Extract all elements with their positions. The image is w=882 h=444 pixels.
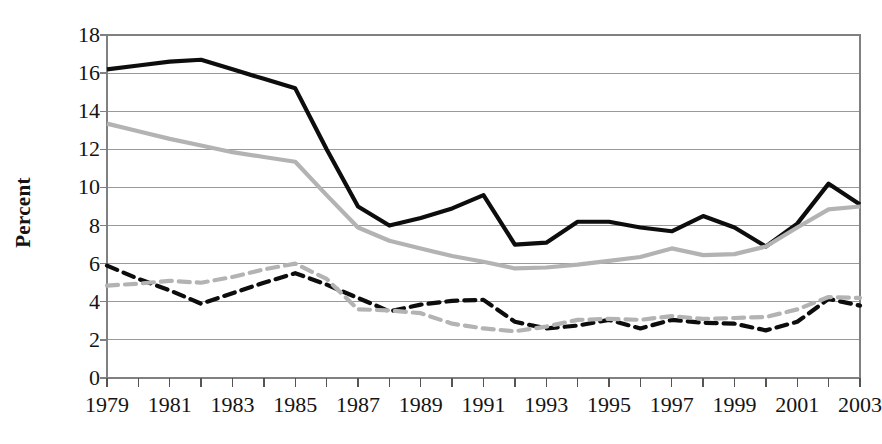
- plot-area: [0, 0, 882, 444]
- series-solid-black: [107, 60, 860, 247]
- data-series-layer: [107, 60, 860, 332]
- series-dashed-black: [107, 266, 860, 331]
- series-dashed-gray: [107, 264, 860, 332]
- percent-trend-line-chart: Percent 024681012141618 1979198119831985…: [0, 0, 882, 444]
- gridlines: [107, 35, 860, 340]
- x-axis-minor-ticks: [107, 378, 860, 387]
